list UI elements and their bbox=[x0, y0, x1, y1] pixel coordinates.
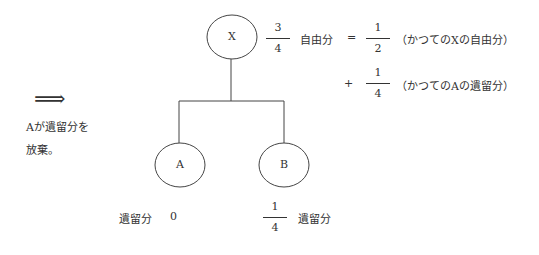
node-x-label: X bbox=[222, 30, 242, 43]
node-b-label: B bbox=[274, 158, 294, 171]
fraction-bar bbox=[263, 217, 287, 218]
fraction-denominator: 4 bbox=[266, 42, 290, 56]
term2-note: （かつてのAの遺留分） bbox=[396, 77, 514, 93]
term1-fraction: 1 2 bbox=[366, 21, 390, 56]
a-reserved-label: 遺留分 bbox=[119, 210, 152, 226]
plus-sign: + bbox=[344, 77, 353, 90]
b-reserved-label: 遺留分 bbox=[298, 210, 331, 226]
fraction-numerator: 1 bbox=[366, 66, 390, 80]
node-a-label: A bbox=[170, 158, 190, 171]
fraction-bar bbox=[366, 83, 390, 84]
term1-note: （かつてのXの自由分） bbox=[396, 31, 514, 47]
double-arrow-icon: ⟹ bbox=[34, 88, 66, 110]
fraction-numerator: 1 bbox=[366, 21, 390, 35]
b-reserved-fraction: 1 4 bbox=[263, 200, 287, 235]
arrow-caption-line1: Aが遺留分を bbox=[26, 118, 89, 134]
a-reserved-value: 0 bbox=[170, 210, 177, 223]
term2-fraction: 1 4 bbox=[366, 66, 390, 101]
arrow-caption-line2: 放棄。 bbox=[26, 141, 59, 157]
x-free-label: 自由分 bbox=[300, 31, 333, 47]
fraction-denominator: 2 bbox=[366, 42, 390, 56]
equals-sign: = bbox=[347, 31, 356, 44]
fraction-bar bbox=[366, 38, 390, 39]
x-free-fraction: 3 4 bbox=[266, 21, 290, 56]
fraction-denominator: 4 bbox=[263, 221, 287, 235]
fraction-numerator: 3 bbox=[266, 21, 290, 35]
fraction-denominator: 4 bbox=[366, 87, 390, 101]
fraction-numerator: 1 bbox=[263, 200, 287, 214]
fraction-bar bbox=[266, 38, 290, 39]
